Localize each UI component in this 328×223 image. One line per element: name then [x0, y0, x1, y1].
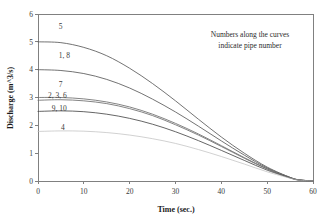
- annotation-line: Numbers along the curves: [211, 30, 290, 39]
- y-tick-label: 6: [29, 10, 33, 19]
- discharge-time-chart: 0102030405060 0123456 51, 872, 3, 69, 10…: [0, 0, 328, 223]
- curve-label: 4: [61, 123, 65, 132]
- y-tick-label: 5: [29, 38, 33, 47]
- y-tick-label: 4: [29, 65, 33, 74]
- curve-4: [38, 131, 313, 181]
- curve-label: 9, 10: [52, 104, 67, 113]
- y-axis-ticks: 0123456: [29, 10, 38, 186]
- y-tick-label: 1: [29, 149, 33, 158]
- y-axis-title-text: Discharge (m^3/s): [6, 67, 15, 130]
- x-tick-label: 60: [309, 187, 317, 196]
- curve-label: 2, 3, 6: [48, 91, 67, 100]
- curve-label: 1, 8: [59, 51, 71, 60]
- chart-canvas: 0102030405060 0123456 51, 872, 3, 69, 10…: [0, 0, 328, 223]
- x-tick-label: 20: [126, 187, 134, 196]
- curve-label-group: 51, 872, 3, 69, 104: [48, 22, 70, 132]
- x-tick-label: 30: [172, 187, 180, 196]
- plot-frame: [38, 14, 313, 181]
- curve-label: 7: [59, 80, 63, 89]
- x-tick-label: 10: [80, 187, 88, 196]
- curve-label: 5: [59, 22, 63, 31]
- y-tick-label: 0: [29, 177, 33, 186]
- plot-border: [38, 14, 313, 181]
- x-axis-title: Time (sec.): [157, 205, 195, 214]
- x-axis-ticks: 0102030405060: [36, 181, 317, 196]
- chart-annotation: Numbers along the curvesindicate pipe nu…: [211, 30, 290, 50]
- curve-1-8: [38, 70, 313, 181]
- curve-7: [38, 97, 313, 181]
- y-tick-label: 3: [29, 93, 33, 102]
- x-tick-label: 40: [218, 187, 226, 196]
- x-tick-label: 50: [263, 187, 271, 196]
- y-tick-label: 2: [29, 121, 33, 130]
- curve-group: [38, 42, 313, 181]
- annotation-line: indicate pipe number: [218, 41, 282, 50]
- x-tick-label: 0: [36, 187, 40, 196]
- y-axis-title: Discharge (m^3/s): [6, 67, 15, 130]
